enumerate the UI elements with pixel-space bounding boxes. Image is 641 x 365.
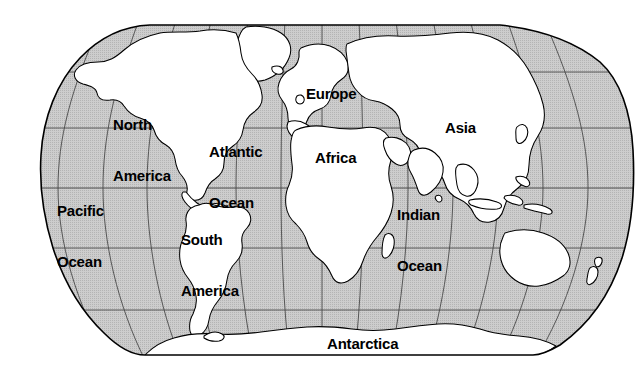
label-asia: Asia [445, 119, 476, 136]
label-north-america-line1: North [113, 116, 171, 133]
land-new-zealand-north [595, 257, 603, 267]
label-pacific-ocean: Pacific Ocean [57, 168, 104, 304]
label-africa: Africa [315, 149, 356, 166]
label-north-america-line2: America [113, 167, 171, 184]
label-europe: Europe [306, 85, 356, 102]
land-british-isles [296, 95, 305, 104]
label-indian-ocean-line2: Ocean [397, 257, 442, 274]
label-antarctica: Antarctica [327, 335, 398, 352]
label-south-america-line1: South [181, 231, 239, 248]
label-pacific-ocean-line1: Pacific [57, 202, 104, 219]
label-south-america: South America [181, 197, 239, 333]
label-indian-ocean: Indian Ocean [397, 172, 442, 308]
label-indian-ocean-line1: Indian [397, 206, 442, 223]
label-north-america: North America [113, 82, 171, 218]
world-map: North America Atlantic Ocean Pacific Oce… [0, 0, 641, 365]
label-pacific-ocean-line2: Ocean [57, 253, 104, 270]
label-south-america-line2: America [181, 282, 239, 299]
label-atlantic-ocean-line1: Atlantic [209, 143, 262, 160]
